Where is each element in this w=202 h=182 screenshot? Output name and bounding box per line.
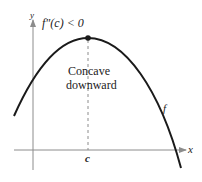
peak-point [85,35,91,41]
function-label: f [163,102,168,114]
condition-label: f″(c) < 0 [42,16,84,30]
point-c-label: c [85,152,90,164]
x-axis-label: x [187,143,193,155]
y-axis-label: y [29,10,34,20]
curve-f [14,38,181,168]
annotation-concave: Concave [68,64,110,78]
annotation-downward: downward [66,78,117,92]
concavity-diagram: y f″(c) < 0 Concave downward f c x [0,0,202,182]
